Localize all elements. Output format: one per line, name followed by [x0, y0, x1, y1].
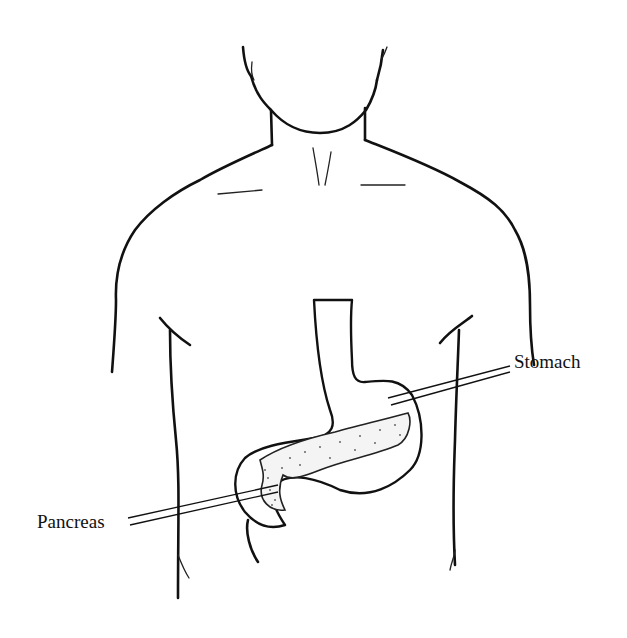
clavicle-lines: [218, 185, 405, 194]
neck-outline: [271, 108, 365, 185]
pancreas-label: Pancreas: [37, 512, 105, 531]
torso-diagram: [0, 0, 627, 638]
right-shoulder-outline: [365, 140, 534, 570]
stomach-label: Stomach: [514, 352, 581, 371]
